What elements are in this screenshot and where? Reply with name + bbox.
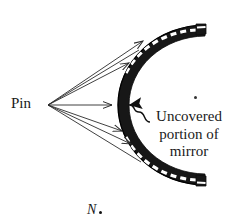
callout-line-1: Uncovered [147, 108, 231, 126]
optics-ray-diagram: Pin Uncovered portion of mirror N [0, 0, 239, 222]
point-n-dot [99, 211, 102, 214]
stray-dot-mark [194, 96, 197, 99]
uncovered-portion-callout: Uncovered portion of mirror [147, 108, 231, 161]
callout-line-2: portion of [147, 126, 231, 144]
point-n-label: N [87, 203, 96, 217]
callout-line-3: mirror [147, 143, 231, 161]
pin-label: Pin [11, 96, 31, 111]
